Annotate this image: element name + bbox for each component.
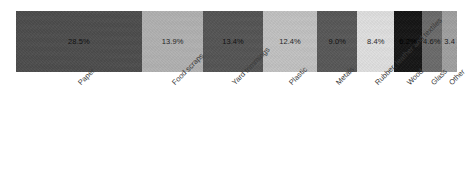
bar-segment-value-label: 13.9% xyxy=(162,38,184,46)
bar-segment-value-label: 4.6% xyxy=(423,38,441,46)
bar-segment-value-label: 8.4% xyxy=(367,38,385,46)
bar-segment-value-label: 12.4% xyxy=(279,38,301,46)
bar-segment-other[interactable]: 3.4 xyxy=(442,11,457,72)
stacked-bar-chart: 28.5%13.9%13.4%12.4%9.0%8.4%6.2%4.6%3.4 … xyxy=(0,0,473,176)
bar-segment-metals[interactable]: 9.0% xyxy=(317,11,357,72)
bar-segment-value-label: 3.4 xyxy=(444,38,455,46)
bar-segment-value-label: 13.4% xyxy=(222,38,244,46)
bar-segment-plastic[interactable]: 12.4% xyxy=(263,11,318,72)
bar-segment-value-label: 28.5% xyxy=(68,38,90,46)
bar-segment-value-label: 6.2% xyxy=(399,38,417,46)
bar-segment-value-label: 9.0% xyxy=(329,38,347,46)
bar-segment-paper[interactable]: 28.5% xyxy=(16,11,142,72)
